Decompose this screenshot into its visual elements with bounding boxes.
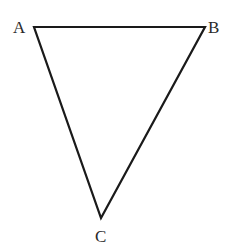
vertex-label-b: B [208,18,219,37]
triangle-abc [34,27,205,218]
vertex-label-c: C [95,227,106,246]
triangle-diagram: A B C [0,0,232,249]
vertex-label-a: A [13,18,26,37]
